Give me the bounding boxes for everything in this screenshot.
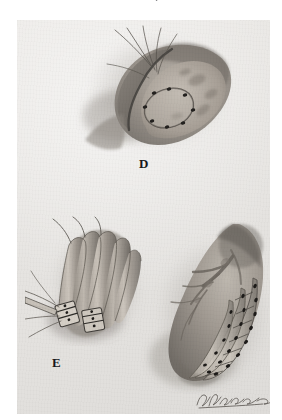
top-caption-cutoff: cut-off line of caption text bbox=[0, 0, 282, 3]
artist-signature bbox=[195, 388, 270, 412]
panel-f-drawing bbox=[137, 208, 270, 408]
panel-label-d: D bbox=[139, 157, 149, 170]
panel-label-e: E bbox=[52, 356, 61, 369]
panel-d bbox=[65, 22, 255, 162]
panel-f bbox=[137, 208, 270, 408]
illustration-page: cut-off line of caption text bbox=[0, 0, 282, 420]
panel-d-drawing bbox=[65, 22, 255, 162]
illustration-plate: D E F bbox=[17, 20, 270, 414]
